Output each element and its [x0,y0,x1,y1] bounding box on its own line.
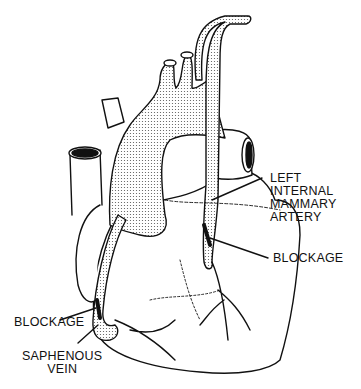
label-left-internal-mammary-artery: LEFT INTERNAL MAMMARY ARTERY [270,172,336,224]
label-blockage-left: BLOCKAGE [14,316,84,329]
heart-bypass-diagram: LEFT INTERNAL MAMMARY ARTERY BLOCKAGE BL… [0,0,361,389]
label-saphenous-vein: SAPHENOUS VEIN [22,350,102,376]
vena-cava [70,150,102,215]
label-blockage-right: BLOCKAGE [273,252,343,265]
